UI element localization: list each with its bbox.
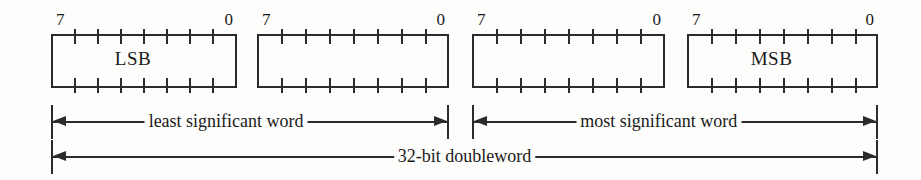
bit-tick [568, 78, 570, 93]
span-label-doubleword: 32-bit doubleword [394, 146, 535, 166]
bit-index-msb-3: 7 [692, 11, 701, 28]
bit-tick [425, 78, 427, 93]
bit-index-lsb-2: 0 [653, 11, 662, 28]
bit-tick [616, 29, 618, 44]
bit-tick [711, 29, 713, 44]
bit-tick [166, 29, 168, 44]
span-most-significant-word: most significant word [472, 105, 878, 139]
bit-tick [783, 29, 785, 44]
bit-tick [735, 29, 737, 44]
byte-order-figure: LSB 7 0 7 0 7 0 [0, 0, 921, 180]
bit-tick [305, 78, 307, 93]
bit-tick [281, 29, 283, 44]
bit-tick [496, 78, 498, 93]
span-least-significant-word: least significant word [51, 105, 449, 139]
bit-index-lsb-1: 0 [437, 11, 446, 28]
bit-tick [520, 78, 522, 93]
bit-tick [640, 29, 642, 44]
arrow-left-icon [53, 151, 66, 161]
arrow-right-icon [863, 116, 876, 126]
span-label-msw: most significant word [576, 111, 741, 131]
byte-label-lsb: LSB [53, 49, 235, 68]
bit-tick [616, 78, 618, 93]
bit-tick [496, 29, 498, 44]
bit-index-lsb-0: 0 [225, 11, 234, 28]
bit-tick [735, 78, 737, 93]
arrow-left-icon [474, 116, 487, 126]
bit-tick [855, 29, 857, 44]
bit-tick [783, 78, 785, 93]
bit-tick [120, 78, 122, 93]
bit-tick [377, 78, 379, 93]
bit-tick [143, 29, 145, 44]
bit-tick [544, 29, 546, 44]
byte-box-2 [472, 34, 665, 88]
bit-tick [831, 78, 833, 93]
bit-tick [425, 29, 427, 44]
bit-tick [568, 29, 570, 44]
bit-index-msb-0: 7 [56, 11, 65, 28]
bit-tick [520, 29, 522, 44]
bit-tick [74, 29, 76, 44]
bit-tick [305, 29, 307, 44]
bit-tick [329, 29, 331, 44]
span-end-bar-right [876, 140, 878, 174]
bit-tick [97, 78, 99, 93]
span-32-bit-doubleword: 32-bit doubleword [51, 140, 878, 174]
bit-tick [544, 78, 546, 93]
bit-tick [189, 78, 191, 93]
bit-tick [329, 78, 331, 93]
bit-tick [640, 78, 642, 93]
bit-tick [759, 78, 761, 93]
bit-tick [807, 78, 809, 93]
byte-label-msb: MSB [689, 49, 876, 68]
bit-tick [759, 29, 761, 44]
byte-box-0: LSB [51, 34, 237, 88]
bit-tick [592, 29, 594, 44]
bit-index-lsb-3: 0 [866, 11, 875, 28]
bit-tick [166, 78, 168, 93]
bit-tick [212, 78, 214, 93]
bit-tick [189, 29, 191, 44]
bit-tick [353, 78, 355, 93]
span-end-bar-right [447, 105, 449, 139]
byte-box-1 [257, 34, 449, 88]
bit-tick [807, 29, 809, 44]
bit-tick [353, 29, 355, 44]
bit-tick [711, 78, 713, 93]
bit-tick [74, 78, 76, 93]
arrow-right-icon [434, 116, 447, 126]
bit-tick [97, 29, 99, 44]
bit-tick [401, 29, 403, 44]
byte-box-3: MSB [687, 34, 878, 88]
bit-tick [401, 78, 403, 93]
bit-tick [592, 78, 594, 93]
span-label-lsw: least significant word [145, 111, 308, 131]
arrow-right-icon [863, 151, 876, 161]
span-end-bar-right [876, 105, 878, 139]
bit-tick [377, 29, 379, 44]
bit-tick [120, 29, 122, 44]
bit-index-msb-1: 7 [262, 11, 271, 28]
bit-index-msb-2: 7 [477, 11, 486, 28]
bit-tick [143, 78, 145, 93]
arrow-left-icon [53, 116, 66, 126]
bit-tick [212, 29, 214, 44]
bit-tick [281, 78, 283, 93]
bit-tick [831, 29, 833, 44]
bit-tick [855, 78, 857, 93]
